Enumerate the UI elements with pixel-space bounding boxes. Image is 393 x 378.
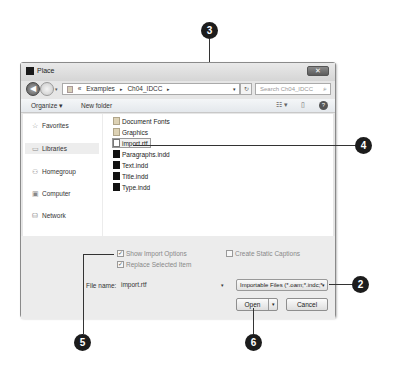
open-options-dropdown-icon[interactable]: ▾ — [268, 299, 277, 310]
checkbox-box[interactable]: ✓ — [117, 261, 124, 268]
search-icon[interactable]: ⌕ — [323, 84, 327, 94]
address-row: ◀ ▾ « Examples ▸ Ch04_IDCC ▸ ▾ ↻ Search … — [21, 81, 335, 97]
create-static-captions-checkbox[interactable]: Create Static Captions — [226, 250, 300, 257]
navigation-pane: ☆ Favorites ▭ Libraries ⚇ Homegroup ▣ Co… — [23, 114, 103, 236]
cancel-button[interactable]: Cancel — [286, 298, 328, 311]
help-icon[interactable]: ? — [319, 101, 328, 110]
place-dialog: Place ✕ ◀ ▾ « Examples ▸ Ch04_IDCC ▸ ▾ ↻… — [20, 62, 336, 318]
indd-file-icon — [113, 183, 120, 191]
file-item[interactable]: Title.indd — [113, 172, 148, 180]
star-icon: ☆ — [31, 122, 39, 129]
search-input[interactable]: Search Ch04_IDCC ⌕ — [255, 83, 331, 95]
search-placeholder: Search Ch04_IDCC — [260, 86, 313, 92]
back-button[interactable]: ◀ — [26, 82, 40, 96]
breadcrumb-separator-icon[interactable]: ▸ — [120, 86, 123, 92]
checkbox-box[interactable] — [226, 250, 233, 257]
indd-file-icon — [113, 150, 120, 158]
file-item[interactable]: Paragraphs.indd — [113, 150, 170, 158]
nav-item-computer[interactable]: ▣ Computer — [31, 190, 71, 197]
file-name: Text.indd — [122, 162, 148, 169]
address-bar[interactable]: « Examples ▸ Ch04_IDCC ▸ ▾ — [62, 83, 240, 95]
preview-pane-icon[interactable]: ▯ — [301, 101, 305, 109]
recent-locations-dropdown[interactable]: ▾ — [55, 86, 58, 92]
browser-body: ☆ Favorites ▭ Libraries ⚇ Homegroup ▣ Co… — [23, 114, 333, 236]
folder-icon — [113, 117, 120, 125]
open-label: Open — [245, 301, 261, 308]
indd-file-icon — [113, 172, 120, 180]
bottom-panel: ✓ Show Import Options ✓ Replace Selected… — [21, 236, 335, 319]
callout-6: 6 — [245, 334, 262, 351]
nav-label: Computer — [42, 190, 71, 197]
open-button[interactable]: Open ▾ — [236, 298, 278, 311]
callout-5-leader — [83, 254, 114, 255]
nav-item-network[interactable]: ⛁ Network — [31, 212, 66, 219]
file-name: Title.indd — [122, 173, 148, 180]
indesign-app-icon — [26, 67, 34, 75]
callout-3: 3 — [201, 22, 218, 39]
organize-button[interactable]: Organize ▾ — [31, 102, 63, 110]
address-overflow[interactable]: « — [78, 85, 82, 92]
file-name: Paragraphs.indd — [122, 151, 170, 158]
address-dropdown-icon[interactable]: ▾ — [233, 84, 236, 94]
file-name: Graphics — [122, 129, 148, 136]
nav-item-homegroup[interactable]: ⚇ Homegroup — [31, 168, 76, 175]
nav-label: Network — [42, 212, 66, 219]
change-view-icon[interactable]: ☷ ▾ — [276, 101, 288, 109]
computer-icon: ▣ — [31, 190, 39, 197]
close-button[interactable]: ✕ — [307, 66, 329, 76]
rtf-file-icon — [113, 139, 120, 147]
file-item[interactable]: Type.indd — [113, 183, 150, 191]
callout-2: 2 — [352, 276, 369, 293]
network-icon: ⛁ — [31, 212, 39, 219]
callout-4-leader — [133, 145, 357, 146]
callout-5-leader — [83, 254, 84, 334]
show-import-options-checkbox[interactable]: ✓ Show Import Options — [117, 250, 187, 257]
folder-icon — [113, 128, 120, 136]
nav-label: Favorites — [42, 122, 69, 129]
new-folder-button[interactable]: New folder — [81, 102, 112, 109]
file-name: Document Fonts — [122, 118, 170, 125]
callout-5: 5 — [74, 334, 91, 351]
nav-label: Homegroup — [42, 168, 76, 175]
indd-file-icon — [113, 161, 120, 169]
breadcrumb-separator-icon[interactable]: ▸ — [167, 86, 170, 92]
nav-item-libraries[interactable]: ▭ Libraries — [25, 143, 99, 154]
file-name-label: File name: — [86, 282, 116, 289]
refresh-button[interactable]: ↻ — [240, 83, 252, 95]
file-type-select[interactable]: Importable Files (*.oam;*.indc;* ▾ — [236, 279, 328, 291]
breadcrumb-examples[interactable]: Examples — [86, 85, 115, 92]
checkbox-label: Replace Selected Item — [126, 261, 191, 268]
file-name-input[interactable]: import.rtf — [121, 279, 229, 291]
checkbox-label: Create Static Captions — [235, 250, 300, 257]
title-bar[interactable]: Place ✕ — [21, 63, 335, 81]
back-arrow-icon: ◀ — [30, 84, 36, 93]
library-icon: ▭ — [31, 145, 39, 152]
forward-button[interactable] — [40, 82, 54, 96]
file-type-value: Importable Files (*.oam;*.indc;* — [240, 282, 323, 288]
file-list: Document Fonts Graphics import.rtf Parag… — [107, 114, 327, 236]
breadcrumb-ch04-idcc[interactable]: Ch04_IDCC — [127, 85, 162, 92]
file-item[interactable]: Text.indd — [113, 161, 148, 169]
dialog-title: Place — [37, 67, 55, 74]
checkbox-label: Show Import Options — [126, 250, 187, 257]
callout-4: 4 — [355, 137, 372, 154]
file-item[interactable]: Document Fonts — [113, 117, 170, 125]
checkbox-box[interactable]: ✓ — [117, 250, 124, 257]
homegroup-icon: ⚇ — [31, 168, 39, 175]
nav-label: Libraries — [42, 145, 67, 152]
replace-selected-item-checkbox[interactable]: ✓ Replace Selected Item — [117, 261, 191, 268]
file-name-dropdown-icon[interactable]: ▾ — [221, 282, 224, 288]
callout-6-leader — [253, 308, 254, 334]
nav-item-favorites[interactable]: ☆ Favorites — [31, 122, 69, 129]
file-item[interactable]: Graphics — [113, 128, 148, 136]
file-name: Type.indd — [122, 184, 150, 191]
folder-icon — [67, 86, 73, 93]
chevron-down-icon[interactable]: ▾ — [322, 280, 325, 290]
toolbar: Organize ▾ New folder ☷ ▾ ▯ ? — [21, 99, 335, 113]
callout-2-leader — [329, 284, 353, 285]
